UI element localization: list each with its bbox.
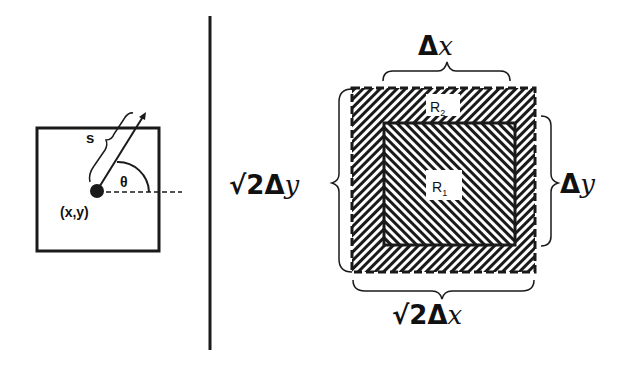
right-brace bbox=[541, 116, 558, 246]
point-label: (x,y) bbox=[60, 204, 89, 220]
figure-canvas: s θ (x,y) R2 R1 Δx Δy √2Δy √2Δx bbox=[0, 0, 629, 372]
point-marker bbox=[90, 184, 104, 198]
bottom-brace bbox=[353, 280, 534, 299]
top-brace bbox=[383, 62, 510, 81]
s-brace bbox=[90, 113, 134, 182]
right-label: Δy bbox=[560, 169, 595, 199]
left-label: √2Δy bbox=[229, 170, 300, 200]
left-panel: s θ (x,y) bbox=[37, 112, 182, 251]
theta-label: θ bbox=[120, 174, 128, 190]
bottom-label: √2Δx bbox=[392, 300, 463, 330]
right-panel: R2 R1 Δx Δy √2Δy √2Δx bbox=[229, 31, 595, 330]
s-label: s bbox=[86, 129, 94, 146]
top-label: Δx bbox=[418, 31, 453, 61]
left-brace bbox=[332, 89, 352, 272]
